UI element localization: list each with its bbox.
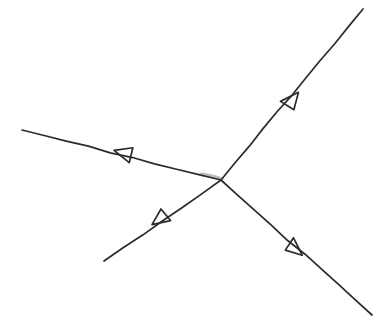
arrowhead-lower-left: [148, 208, 171, 230]
diagram-canvas: [0, 0, 387, 323]
lower-right-leg: [221, 180, 372, 315]
arrowhead-upper-right: [281, 87, 305, 111]
diagram-legs-group: [22, 9, 372, 315]
upper-right-leg: [221, 9, 363, 180]
upper-left-leg: [22, 130, 221, 180]
feynman-vertex-diagram: [0, 0, 387, 323]
lower-left-leg: [104, 180, 221, 261]
